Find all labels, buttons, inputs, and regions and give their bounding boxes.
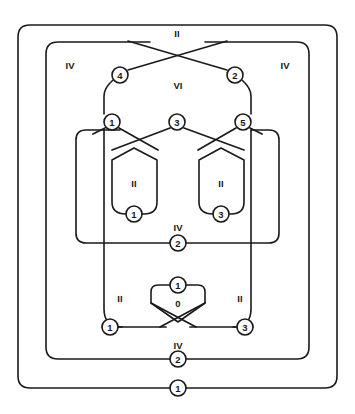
region-label-iv-middle: IV [174, 222, 184, 233]
node-3-box-right[interactable]: 3 [213, 206, 229, 222]
node-label: 3 [218, 209, 223, 220]
node-2-middle-iv[interactable]: 2 [170, 235, 186, 251]
wire-node3-to-right-box [184, 128, 244, 150]
wire-node3-to-left-box [112, 128, 170, 150]
boundary-iv-second-left [46, 42, 170, 359]
wire-node5-to-right-box [198, 128, 236, 150]
node-5-mid-right[interactable]: 5 [235, 114, 251, 130]
node-1-lower-left[interactable]: 1 [102, 319, 118, 335]
wire-node1-to-left-box [119, 128, 158, 150]
region-label-vi-center: VI [174, 80, 183, 91]
boundary-iv-fourth-right [186, 130, 279, 243]
node-1-mid-left[interactable]: 1 [104, 114, 120, 130]
region-label-group: II IV IV VI II II IV II II 0 IV [66, 28, 291, 351]
node-label: 5 [240, 117, 246, 128]
region-label-zero: 0 [175, 298, 180, 309]
node-label: 1 [175, 280, 181, 291]
vi-region-right-side [242, 80, 251, 114]
region-label-ii-box-left: II [131, 178, 136, 189]
node-1-zero-top[interactable]: 1 [170, 277, 186, 293]
nested-region-diagram: 4 2 1 3 5 1 [0, 0, 355, 414]
diagram-canvas: 4 2 1 3 5 1 [0, 0, 355, 414]
node-label: 1 [131, 209, 137, 220]
node-1-outer-bottom[interactable]: 1 [170, 380, 186, 396]
region-label-ii-top: II [174, 28, 179, 39]
node-label: 3 [174, 117, 179, 128]
node-3-lower-right[interactable]: 3 [237, 319, 253, 335]
node-label: 1 [107, 322, 113, 333]
region-label-ii-box-right: II [218, 178, 223, 189]
boundary-iv-second-right [186, 42, 309, 359]
node-3-mid-center[interactable]: 3 [169, 114, 185, 130]
node-2-bottom-iv[interactable]: 2 [170, 351, 186, 367]
region-label-iv-top-left: IV [66, 60, 76, 71]
region-label-ii-lower-right: II [237, 293, 242, 304]
region-label-ii-lower-left: II [117, 293, 122, 304]
vi-region-left-side [104, 80, 113, 114]
node-label: 3 [242, 322, 247, 333]
node-label: 2 [175, 354, 180, 365]
node-label: 1 [109, 117, 115, 128]
boundary-iv-fourth-left [76, 130, 170, 243]
node-4-upper-left[interactable]: 4 [112, 67, 128, 83]
node-label: 1 [175, 383, 181, 394]
node-label: 4 [117, 70, 123, 81]
region-label-iv-bottom: IV [174, 340, 184, 351]
node-label: 2 [232, 70, 237, 81]
node-2-upper-right[interactable]: 2 [227, 67, 243, 83]
node-1-box-left[interactable]: 1 [126, 206, 142, 222]
node-label: 2 [175, 238, 180, 249]
region-label-iv-top-right: IV [281, 60, 291, 71]
